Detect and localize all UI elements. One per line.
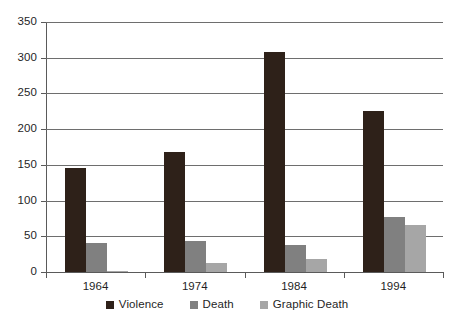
legend-swatch-icon — [106, 301, 114, 309]
chart-legend: ViolenceDeathGraphic Death — [0, 299, 454, 311]
bar — [285, 245, 306, 272]
legend-swatch-icon — [260, 301, 268, 309]
bar — [206, 263, 227, 272]
y-axis-tick-label: 0 — [0, 266, 37, 278]
x-axis-tick-label: 1974 — [165, 280, 225, 294]
x-tick-mark — [344, 272, 345, 278]
bar — [384, 217, 405, 272]
legend-swatch-icon — [190, 301, 198, 309]
bar-chart: 050100150200250300350 1964197419841994 V… — [0, 0, 454, 327]
bar — [185, 241, 206, 272]
y-axis-tick-label: 200 — [0, 123, 37, 135]
x-axis-tick-label: 1964 — [66, 280, 126, 294]
bar — [86, 243, 107, 272]
bar — [306, 259, 327, 272]
bar — [405, 225, 426, 272]
legend-label: Graphic Death — [273, 299, 348, 311]
y-axis-tick-label: 150 — [0, 159, 37, 171]
bar — [164, 152, 185, 272]
legend-label: Death — [203, 299, 234, 311]
x-axis-tick-label: 1984 — [264, 280, 324, 294]
x-tick-mark — [245, 272, 246, 278]
y-axis-tick-label: 250 — [0, 87, 37, 99]
legend-label: Violence — [119, 299, 164, 311]
x-tick-mark — [46, 272, 47, 278]
bar — [264, 52, 285, 272]
bar — [107, 271, 128, 272]
x-axis-tick-label: 1994 — [363, 280, 423, 294]
y-axis-tick-label: 350 — [0, 16, 37, 28]
x-tick-mark — [443, 272, 444, 278]
legend-item: Graphic Death — [260, 299, 348, 311]
y-axis-tick-label: 50 — [0, 230, 37, 242]
y-axis-tick-label: 100 — [0, 195, 37, 207]
bar — [363, 111, 384, 272]
x-tick-mark — [145, 272, 146, 278]
bar — [65, 168, 86, 272]
plot-area — [46, 22, 443, 272]
y-axis-tick-label: 300 — [0, 52, 37, 64]
legend-item: Violence — [106, 299, 164, 311]
legend-item: Death — [190, 299, 234, 311]
